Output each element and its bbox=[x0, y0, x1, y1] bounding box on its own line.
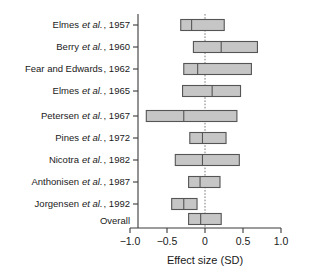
ci-box-row bbox=[184, 64, 252, 75]
confidence-interval-box bbox=[189, 214, 222, 225]
xtick-label-0: −1.0 bbox=[120, 235, 141, 247]
category-label-9: Overall bbox=[100, 215, 130, 226]
confidence-interval-box bbox=[189, 177, 220, 188]
category-label-8: Jorgensenet al., 1992 bbox=[35, 198, 130, 209]
category-label-2: Fear and Edwards, 1962 bbox=[25, 63, 130, 74]
category-label-0: Elmeset al., 1957 bbox=[53, 19, 130, 30]
forest-plot-chart: Elmeset al., 1957 Berryet al., 1960 Fear… bbox=[0, 0, 319, 273]
ci-box-row bbox=[189, 214, 222, 225]
ci-box-row bbox=[172, 199, 197, 210]
category-label-1: Berryet al., 1960 bbox=[56, 41, 130, 52]
xtick-label-2: 0 bbox=[202, 235, 208, 247]
ci-box-row bbox=[190, 133, 226, 144]
xtick-label-4: 1.0 bbox=[274, 235, 289, 247]
confidence-interval-box bbox=[181, 20, 224, 31]
ci-box-row bbox=[193, 42, 257, 53]
confidence-interval-box bbox=[193, 42, 257, 53]
confidence-interval-box bbox=[172, 199, 197, 210]
ci-box-row bbox=[181, 20, 224, 31]
ci-box-row bbox=[189, 177, 220, 188]
xtick-label-1: −0.5 bbox=[157, 235, 178, 247]
category-label-6: Nicotraet al., 1982 bbox=[49, 154, 130, 165]
ci-box-row bbox=[175, 155, 239, 166]
confidence-interval-box bbox=[190, 133, 226, 144]
xtick-label-3: 0.5 bbox=[236, 235, 251, 247]
ci-box-row bbox=[146, 111, 237, 122]
confidence-interval-box bbox=[146, 111, 237, 122]
chart-background bbox=[0, 0, 319, 273]
ci-box-row bbox=[183, 86, 241, 97]
confidence-interval-box bbox=[175, 155, 239, 166]
x-axis-title: Effect size (SD) bbox=[167, 254, 243, 266]
category-label-4: Petersenet al., 1967 bbox=[41, 110, 130, 121]
category-label-3: Elmeset al., 1965 bbox=[53, 85, 130, 96]
confidence-interval-box bbox=[183, 86, 241, 97]
confidence-interval-box bbox=[184, 64, 252, 75]
category-label-5: Pineset al., 1972 bbox=[55, 132, 130, 143]
